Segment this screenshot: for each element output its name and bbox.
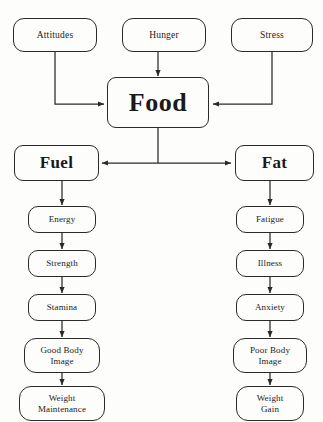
- node-strength: Strength: [28, 250, 96, 277]
- node-weight-maintenance-label-line2: Maintenance: [38, 404, 86, 414]
- flow-diagram: Attitudes Hunger Stress Food Fuel Fat En…: [0, 0, 323, 422]
- node-weight-gain-label-line2: Gain: [261, 404, 279, 414]
- node-weight-gain: Weight Gain: [236, 386, 304, 421]
- node-energy: Energy: [28, 206, 96, 233]
- node-attitudes: Attitudes: [13, 18, 97, 52]
- node-hunger-label: Hunger: [149, 30, 179, 41]
- node-poor-body-image-label-line1: Poor Body: [250, 345, 290, 355]
- node-stress: Stress: [231, 18, 313, 52]
- node-strength-label: Strength: [46, 258, 78, 268]
- node-fatigue: Fatigue: [236, 206, 304, 233]
- node-hunger: Hunger: [122, 18, 206, 52]
- edge-attitudes-food: [55, 52, 104, 104]
- node-fat: Fat: [235, 145, 314, 181]
- node-poor-body-image-label-line2: Image: [258, 356, 281, 366]
- node-fuel-label: Fuel: [40, 153, 74, 172]
- node-energy-label: Energy: [49, 214, 76, 224]
- cropped-title-strip: [0, 0, 323, 7]
- node-stamina: Stamina: [28, 294, 96, 321]
- node-food: Food: [107, 77, 209, 128]
- node-stress-label: Stress: [260, 30, 284, 41]
- node-weight-gain-label-line1: Weight: [257, 393, 284, 403]
- edge-stress-food: [213, 52, 272, 104]
- node-anxiety-label: Anxiety: [255, 302, 285, 312]
- node-stamina-label: Stamina: [47, 302, 78, 312]
- node-attitudes-label: Attitudes: [37, 30, 74, 41]
- node-good-body-image-label-line1: Good Body: [40, 345, 83, 355]
- node-anxiety: Anxiety: [236, 294, 304, 321]
- node-good-body-image-label-line2: Image: [50, 356, 73, 366]
- node-illness: Illness: [236, 250, 304, 277]
- node-good-body-image: Good Body Image: [24, 338, 100, 373]
- node-fuel: Fuel: [14, 145, 99, 181]
- node-weight-maintenance-label-line1: Weight: [49, 393, 76, 403]
- node-illness-label: Illness: [258, 258, 283, 268]
- node-fat-label: Fat: [262, 153, 288, 172]
- node-weight-maintenance: Weight Maintenance: [19, 386, 105, 421]
- node-fatigue-label: Fatigue: [256, 214, 284, 224]
- node-poor-body-image: Poor Body Image: [233, 338, 307, 373]
- node-food-label: Food: [129, 88, 187, 117]
